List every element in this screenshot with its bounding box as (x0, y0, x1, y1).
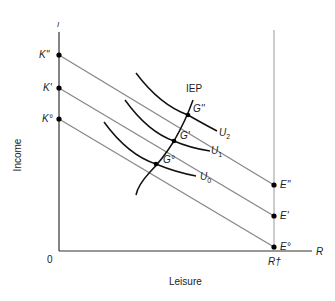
point-k2 (56, 52, 61, 57)
point-e1 (271, 213, 276, 218)
budget-line-2 (59, 55, 274, 185)
label-e1: E' (280, 211, 289, 221)
label-u0: U0 (200, 172, 211, 184)
x-axis-label: Leisure (169, 277, 202, 287)
label-u2: U2 (219, 128, 230, 140)
label-e0: E° (280, 242, 291, 252)
label-k2: K'' (39, 50, 50, 60)
point-e0 (271, 244, 276, 249)
origin-label: 0 (47, 255, 53, 265)
y-axis-symbol: I (57, 21, 59, 29)
point-e2 (271, 182, 276, 187)
point-k1 (56, 85, 61, 90)
y-axis-label: Income (13, 139, 23, 172)
label-k1: K' (43, 83, 52, 93)
label-g2: G'' (193, 104, 205, 114)
point-g0 (154, 162, 159, 167)
point-g1 (172, 139, 177, 144)
label-iep: IEP (186, 84, 202, 94)
label-g0: G° (163, 155, 175, 165)
indifference-curve-u2 (136, 73, 217, 131)
r-max-label: R† (268, 257, 281, 267)
x-axis-symbol: R (316, 247, 323, 257)
label-g1: G' (180, 131, 190, 141)
point-g2 (186, 113, 191, 118)
label-k0: K° (42, 114, 53, 124)
label-u1: U1 (211, 146, 222, 158)
point-k0 (56, 116, 61, 121)
label-e2: E'' (280, 180, 291, 190)
